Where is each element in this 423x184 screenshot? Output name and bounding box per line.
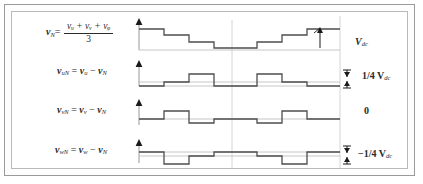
waveform-vvn (136, 99, 340, 125)
axis-arrow-vvn-icon (136, 99, 143, 106)
waveform-vn (136, 18, 340, 50)
axis-arrow-vn-icon (136, 18, 143, 25)
waveform-vwn-trace (139, 152, 340, 164)
waveform-vn-trace (139, 29, 340, 48)
waveform-plot (0, 0, 423, 184)
waveform-vun (136, 60, 351, 88)
waveform-figure: vN= vᵤ + vᵥ + vᵩ 3 Vdc vuN = vu − vN 1/4… (0, 0, 423, 184)
waveform-vun-trace (139, 74, 340, 86)
axis-arrow-vun-icon (136, 60, 143, 67)
axis-arrow-vwn-icon (136, 139, 143, 146)
waveform-vwn (136, 139, 351, 164)
waveform-vvn-trace (139, 111, 340, 123)
